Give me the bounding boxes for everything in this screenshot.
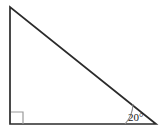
triangle-svg: 20°	[0, 0, 162, 132]
angle-label-text: 20°	[128, 111, 143, 123]
triangle-figure: 20°	[0, 0, 162, 132]
